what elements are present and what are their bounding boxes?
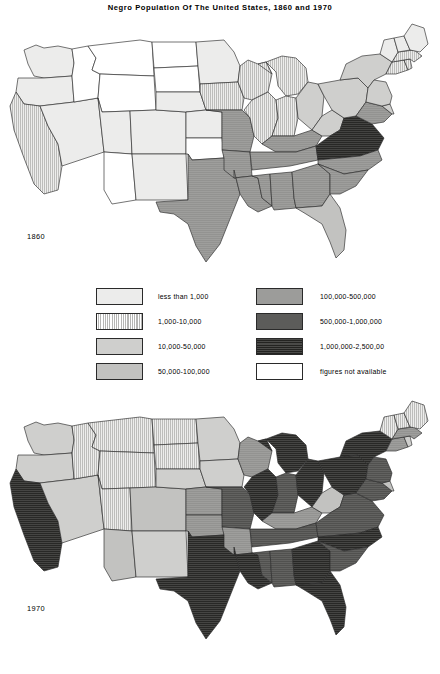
state-OR — [16, 453, 74, 483]
legend-item: 50,000-100,000 — [96, 363, 261, 388]
state-OK — [186, 515, 224, 537]
legend-swatch-icon — [96, 363, 143, 380]
state-KS — [186, 110, 222, 138]
legend-label: less than 1,000 — [158, 293, 209, 300]
state-ND — [152, 42, 198, 68]
state-WA — [24, 422, 74, 455]
state-MN — [196, 417, 240, 461]
year-label-1970: 1970 — [27, 604, 45, 613]
state-GA — [292, 164, 330, 208]
year-label-1860: 1860 — [27, 232, 45, 241]
legend-column-right: 100,000-500,000 500,000-1,000,000 1,000,… — [256, 288, 421, 388]
state-GA — [292, 541, 330, 585]
state-MT — [88, 417, 154, 453]
legend-label: 1,000,000-2,500,00 — [320, 343, 384, 350]
state-NE — [156, 469, 206, 489]
state-KS — [186, 487, 222, 515]
legend-swatch-icon — [256, 288, 303, 305]
legend-label: 50,000-100,000 — [158, 368, 210, 375]
state-WY — [98, 74, 156, 112]
legend-swatch-icon — [256, 313, 303, 330]
state-WA — [24, 45, 74, 78]
legend-item: 10,000-50,000 — [96, 338, 261, 363]
state-CO — [130, 110, 186, 154]
state-AZ — [104, 152, 136, 204]
state-IA — [200, 459, 244, 487]
map-1860 — [0, 18, 440, 273]
legend-label: 500,000-1,000,000 — [320, 318, 382, 325]
legend-item: 1,000,000-2,500,00 — [256, 338, 421, 363]
state-ND — [152, 419, 198, 445]
state-WY — [98, 451, 156, 489]
legend-item: 500,000-1,000,000 — [256, 313, 421, 338]
page-title: Negro Population Of The United States, 1… — [0, 3, 440, 13]
state-OK — [186, 138, 224, 160]
legend-item: 1,000-10,000 — [96, 313, 261, 338]
legend-swatch-icon — [256, 363, 303, 380]
legend-swatch-icon — [96, 338, 143, 355]
legend-label: 1,000-10,000 — [158, 318, 202, 325]
legend-label: 10,000-50,000 — [158, 343, 206, 350]
legend-label: figures not available — [320, 368, 387, 375]
legend-column-left: less than 1,000 1,000-10,000 10,000-50,0… — [96, 288, 261, 388]
state-CO — [130, 487, 186, 531]
state-AZ — [104, 529, 136, 581]
state-NM — [132, 531, 188, 577]
state-MN — [196, 40, 240, 84]
legend-item: less than 1,000 — [96, 288, 261, 313]
legend-swatch-icon — [96, 313, 143, 330]
legend-label: 100,000-500,000 — [320, 293, 376, 300]
legend: less than 1,000 1,000-10,000 10,000-50,0… — [96, 288, 440, 388]
legend-item: 100,000-500,000 — [256, 288, 421, 313]
state-OR — [16, 76, 74, 106]
state-MT — [88, 40, 154, 76]
state-AL — [270, 172, 296, 210]
state-SD — [154, 66, 200, 92]
map-1860-svg — [0, 18, 440, 273]
legend-swatch-icon — [256, 338, 303, 355]
state-NM — [132, 154, 188, 200]
state-AL — [270, 549, 296, 587]
legend-swatch-icon — [96, 288, 143, 305]
state-NE — [156, 92, 206, 112]
map-1970 — [0, 395, 440, 670]
legend-item: figures not available — [256, 363, 421, 388]
state-IA — [200, 82, 244, 110]
map-1970-svg — [0, 395, 440, 670]
state-SD — [154, 443, 200, 469]
